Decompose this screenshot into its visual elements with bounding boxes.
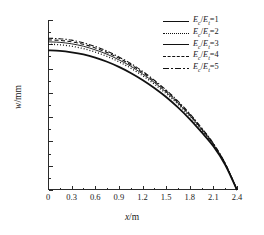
x-tick-label: 1.2: [130, 193, 156, 202]
y-axis-variable: w: [13, 103, 23, 109]
legend-item-1[interactable]: Ec/Et=1: [163, 16, 258, 28]
legend-line-sample: [163, 29, 189, 38]
y-axis-unit: /mm: [13, 85, 23, 102]
legend: Ec/Et=1Ec/Et=2Ec/Et=3Ec/Et=4Ec/Et=5: [163, 16, 258, 74]
legend-item-3[interactable]: Ec/Et=3: [163, 39, 258, 51]
x-tick-label: 1.8: [177, 193, 203, 202]
legend-label: Ec/Et=5: [193, 62, 219, 75]
y-tick: [49, 190, 53, 191]
x-axis-title: x/m: [0, 212, 264, 222]
legend-line-sample: [163, 52, 189, 61]
legend-item-4[interactable]: Ec/Et=4: [163, 51, 258, 63]
x-tick-label: 0.3: [59, 193, 85, 202]
x-tick-label: 0.6: [82, 193, 108, 202]
legend-line-sample: [163, 64, 189, 73]
x-tick-label: 0: [35, 193, 61, 202]
x-tick-label: 2.1: [200, 193, 226, 202]
legend-line-sample: [163, 40, 189, 49]
figure: w/mm x/m 00.10.20.30.40.50.60.7 00.30.60…: [0, 0, 264, 235]
y-axis-title: w/mm: [13, 77, 23, 117]
x-tick-label: 2.4: [224, 193, 250, 202]
x-tick-label: 0.9: [106, 193, 132, 202]
legend-line-sample: [163, 17, 189, 26]
legend-item-2[interactable]: Ec/Et=2: [163, 28, 258, 40]
x-tick-label: 1.5: [153, 193, 179, 202]
x-axis-unit: /m: [129, 212, 139, 222]
legend-item-5[interactable]: Ec/Et=5: [163, 62, 258, 74]
